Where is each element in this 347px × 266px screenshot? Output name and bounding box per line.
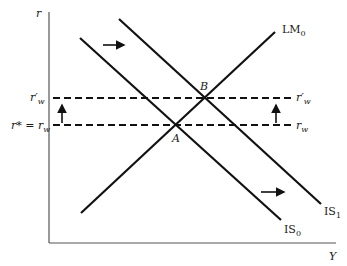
is0-label: IS0 (284, 223, 301, 238)
point-a-label: A (171, 132, 180, 145)
rw-left-label: r* = rw (11, 119, 50, 134)
lm0-label: LM0 (282, 23, 306, 38)
is1-label: IS1 (324, 205, 341, 220)
is-lm-diagram: r Y LM0 IS0 IS1 r′w r* = rw r′w rw A B (0, 0, 347, 266)
rw-prime-right-label: r′w (296, 91, 311, 106)
point-b-label: B (199, 80, 208, 93)
rw-prime-left-label: r′w (30, 91, 45, 106)
is1-curve (119, 19, 321, 204)
lm0-curve (81, 32, 275, 213)
rw-right-label: rw (296, 119, 308, 134)
x-axis-label: Y (329, 250, 338, 263)
is0-curve (80, 38, 281, 220)
y-axis-label: r (36, 7, 42, 20)
